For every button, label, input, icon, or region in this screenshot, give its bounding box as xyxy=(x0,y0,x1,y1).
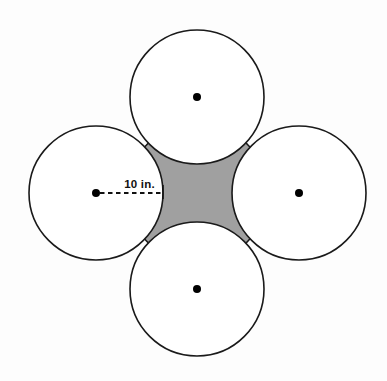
bottom-circle-center-dot xyxy=(193,285,201,293)
figure-canvas: 10 in. xyxy=(0,0,387,381)
radius-dimension-label: 10 in. xyxy=(124,178,155,190)
top-circle-center-dot xyxy=(193,93,201,101)
geometry-diagram: 10 in. xyxy=(0,0,387,381)
left-circle-center-dot xyxy=(92,189,100,197)
right-circle-center-dot xyxy=(295,189,303,197)
